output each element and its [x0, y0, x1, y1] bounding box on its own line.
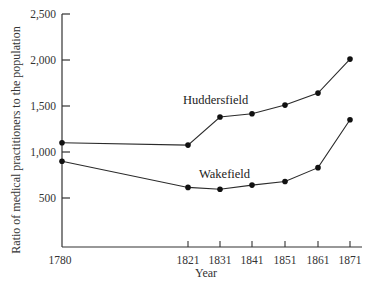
x-tick-label: 1841: [241, 254, 264, 266]
series-huddersfield: Huddersfield: [59, 56, 353, 148]
y-tick-label: 1,500: [30, 100, 56, 113]
x-axis: 1780182118311841185118611871: [49, 241, 363, 266]
series-group: HuddersfieldWakefield: [59, 56, 353, 192]
x-tick-label: 1821: [177, 254, 200, 266]
y-tick-label: 1,000: [30, 146, 56, 159]
data-point: [217, 114, 223, 120]
data-point: [249, 111, 255, 117]
x-axis-title: Year: [195, 266, 217, 280]
x-tick-label: 1871: [339, 254, 362, 266]
data-point: [315, 165, 321, 171]
y-tick-label: 2,000: [30, 54, 56, 67]
y-axis-title: Ratio of medical practitioners to the po…: [9, 26, 23, 253]
x-tick-label: 1831: [209, 254, 232, 266]
data-point: [185, 185, 191, 191]
y-tick-label: 2,500: [30, 8, 56, 21]
data-point: [347, 56, 353, 62]
data-point: [282, 179, 288, 185]
line-chart: 5001,0001,5002,0002,500 1780182118311841…: [0, 0, 378, 289]
data-point: [217, 186, 223, 192]
data-point: [315, 90, 321, 96]
data-point: [59, 140, 65, 146]
y-tick-label: 500: [39, 192, 57, 204]
x-tick-label: 1861: [307, 254, 330, 266]
series-label: Huddersfield: [183, 93, 249, 107]
series-label: Wakefield: [199, 167, 251, 181]
series-wakefield: Wakefield: [59, 117, 353, 192]
data-point: [347, 117, 353, 123]
y-axis: 5001,0001,5002,0002,500: [30, 8, 70, 247]
data-point: [59, 158, 65, 164]
data-point: [249, 182, 255, 188]
data-point: [282, 102, 288, 108]
data-point: [185, 142, 191, 148]
x-tick-label: 1851: [274, 254, 297, 266]
x-tick-label: 1780: [49, 254, 72, 266]
